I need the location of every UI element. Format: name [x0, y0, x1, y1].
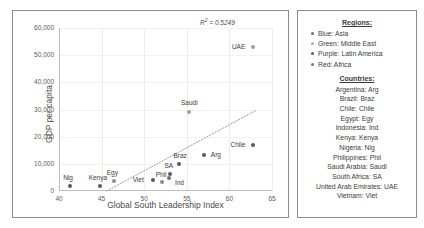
- x-tick-label: 55: [183, 196, 190, 203]
- legend-region-row: Red: Africa: [302, 61, 412, 68]
- scatter-point: [168, 172, 172, 176]
- legend-country-item: South Africa: SA: [302, 173, 412, 180]
- legend-country-item: Vietnam: Viet: [302, 192, 412, 199]
- legend-panel: Regions: Blue: AsiaGreen: Middle EastPur…: [297, 10, 417, 218]
- x-tick-label: 45: [98, 196, 105, 203]
- legend-region-label: Blue: Asia: [318, 30, 348, 37]
- x-tick-label: 60: [226, 196, 233, 203]
- scatter-point-label: Ind: [175, 180, 184, 187]
- scatter-point: [177, 162, 181, 166]
- x-tick-label: 65: [268, 196, 275, 203]
- legend-region-label: Purple: Latin America: [318, 50, 383, 57]
- y-tick-label: 30,000: [34, 106, 54, 113]
- scatter-point-label: Phil: [156, 172, 167, 179]
- y-tick-label: 10,000: [34, 161, 54, 168]
- gridline-vertical: [272, 28, 273, 191]
- plot-area: 010,00020,00030,00040,00050,00060,000 40…: [59, 28, 272, 191]
- legend-marker-icon: [311, 32, 314, 35]
- legend-marker-icon: [311, 63, 314, 66]
- scatter-point-label: Chile: [230, 142, 245, 149]
- x-axis-label: Global South Leadership Index: [59, 200, 272, 210]
- scatter-point-label: Arg: [211, 151, 221, 158]
- legend-marker-icon: [311, 52, 314, 55]
- scatter-point: [167, 176, 171, 180]
- x-tick-label: 50: [141, 196, 148, 203]
- chart-screenshot: GDP per capita Global South Leadership I…: [0, 0, 424, 228]
- y-tick-label: 0: [50, 188, 54, 195]
- scatter-point-label: Nig: [63, 175, 73, 182]
- y-tick-label: 20,000: [34, 133, 54, 140]
- scatter-point: [202, 153, 206, 157]
- legend-country-item: Argentina: Arg: [302, 86, 412, 93]
- scatter-point-label: Viet: [133, 177, 144, 184]
- scatter-point-label: SA: [164, 163, 173, 170]
- legend-country-item: Brazil: Braz: [302, 95, 412, 102]
- legend-country-item: Indonesia: Ind: [302, 124, 412, 131]
- scatter-point: [68, 184, 72, 188]
- y-tick-label: 40,000: [34, 79, 54, 86]
- legend-country-item: Philippines: Phil: [302, 154, 412, 161]
- legend-country-item: Kenya: Kenya: [302, 134, 412, 141]
- legend-region-label: Green: Middle East: [318, 40, 376, 47]
- legend-country-item: Egypt: Egy: [302, 115, 412, 122]
- scatter-point: [251, 45, 255, 49]
- r-squared-annotation: R2 = 0.5249: [200, 17, 235, 26]
- chart-panel: GDP per capita Global South Leadership I…: [12, 10, 289, 218]
- scatter-point: [251, 143, 255, 147]
- scatter-point-label: UAE: [232, 44, 245, 51]
- legend-marker-icon: [311, 42, 314, 45]
- scatter-point-label: Egy: [107, 170, 118, 177]
- legend-country-item: Nigeria: Nig: [302, 144, 412, 151]
- scatter-point: [112, 179, 116, 183]
- legend-country-item: Chile: Chile: [302, 105, 412, 112]
- legend-country-item: Saudi Arabia: Saudi: [302, 163, 412, 170]
- legend-region-row: Green: Middle East: [302, 40, 412, 47]
- y-tick-label: 50,000: [34, 52, 54, 59]
- scatter-point-label: Kenya: [89, 175, 107, 182]
- legend-region-label: Red: Africa: [318, 61, 351, 68]
- scatter-point: [187, 110, 191, 114]
- countries-list: Argentina: ArgBrazil: BrazChile: ChileEg…: [302, 86, 412, 200]
- legend-region-row: Purple: Latin America: [302, 50, 412, 57]
- countries-heading: Countries:: [302, 75, 412, 82]
- scatter-point-label: Braz: [173, 153, 186, 160]
- regions-list: Blue: AsiaGreen: Middle EastPurple: Lati…: [302, 30, 412, 68]
- scatter-point: [151, 178, 155, 182]
- scatter-point: [98, 184, 102, 188]
- scatter-point: [160, 180, 164, 184]
- scatter-point-label: Saudi: [181, 99, 198, 106]
- legend-region-row: Blue: Asia: [302, 30, 412, 37]
- regions-heading: Regions:: [302, 19, 412, 26]
- y-tick-label: 60,000: [34, 25, 54, 32]
- x-tick-label: 40: [55, 196, 62, 203]
- legend-country-item: United Arab Emirates: UAE: [302, 183, 412, 190]
